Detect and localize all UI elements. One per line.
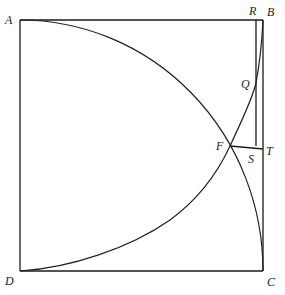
label-R: R	[248, 4, 257, 18]
curve-D-to-B	[20, 20, 263, 271]
arc-A-to-C	[20, 20, 263, 271]
label-D: D	[4, 274, 14, 288]
geometry-diagram: A B C D R Q F S T	[0, 0, 285, 295]
label-F: F	[215, 139, 224, 153]
label-S: S	[248, 152, 254, 166]
label-A: A	[4, 13, 13, 27]
label-T: T	[266, 144, 274, 158]
segment-FT	[230, 146, 263, 149]
label-B: B	[267, 5, 275, 19]
label-C: C	[267, 275, 276, 289]
label-Q: Q	[241, 77, 250, 91]
